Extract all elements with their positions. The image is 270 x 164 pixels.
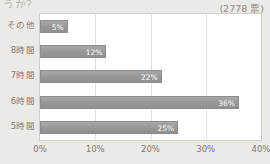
- bar-row: 12%: [40, 39, 261, 64]
- bar-value-label: 22%: [141, 71, 158, 84]
- bar: 22%: [40, 70, 162, 83]
- bar-row: 36%: [40, 90, 261, 115]
- y-axis-label: その他: [7, 13, 35, 38]
- bar: 36%: [40, 96, 239, 109]
- y-axis: その他8時間7時間6時間5時間: [0, 13, 38, 141]
- x-axis-tick-label: 0%: [33, 144, 47, 154]
- poll-results-chart: その他8時間7時間6時間5時間 5%12%22%36%25% 0%10%20%3…: [0, 13, 270, 164]
- x-axis-tick-label: 10%: [86, 144, 105, 154]
- bar: 25%: [40, 121, 178, 134]
- bar: 5%: [40, 20, 68, 33]
- bar-value-label: 36%: [218, 97, 235, 110]
- bar-value-label: 25%: [157, 122, 174, 135]
- y-axis-label: 8時間: [11, 38, 35, 63]
- plot-area: 5%12%22%36%25%: [39, 13, 262, 141]
- x-axis-tick-label: 20%: [141, 144, 160, 154]
- bar-row: 22%: [40, 64, 261, 89]
- bar-series: 5%12%22%36%25%: [40, 14, 261, 140]
- x-axis-tick-label: 30%: [196, 144, 215, 154]
- y-axis-label: 6時間: [11, 89, 35, 114]
- bar-value-label: 5%: [52, 21, 64, 34]
- y-axis-label: 7時間: [11, 63, 35, 88]
- bar: 12%: [40, 45, 106, 58]
- y-axis-label: 5時間: [11, 114, 35, 139]
- x-axis-tick-label: 40%: [252, 144, 270, 154]
- poll-question: うか？: [3, 0, 38, 8]
- bar-value-label: 12%: [86, 46, 103, 59]
- bar-row: 5%: [40, 14, 261, 39]
- x-axis: 0%10%20%30%40%: [39, 142, 262, 160]
- bar-row: 25%: [40, 115, 261, 140]
